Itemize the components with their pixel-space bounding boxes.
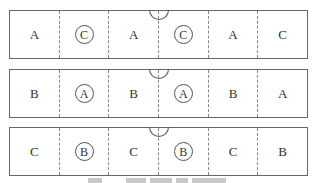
- cell: A: [208, 11, 258, 58]
- circled-cell-label: C: [174, 25, 193, 44]
- cell: A: [10, 11, 59, 58]
- circled-cell-label: B: [174, 142, 193, 161]
- cell: A: [257, 70, 307, 117]
- circled-cell-label: B: [75, 142, 94, 161]
- circled-cell-label: C: [75, 25, 94, 44]
- cell: C: [59, 11, 109, 58]
- cell-label: C: [229, 144, 238, 160]
- figure-caption: [0, 178, 317, 183]
- cell-label: A: [228, 27, 237, 43]
- caption-fragment: [126, 178, 146, 183]
- cell-label: C: [129, 144, 138, 160]
- cell: C: [158, 11, 208, 58]
- panel-row-2: B A B A B A: [9, 69, 308, 118]
- cell-label: B: [278, 144, 287, 160]
- cell: B: [158, 128, 208, 175]
- caption-fragment: [88, 178, 102, 183]
- cell-label: B: [129, 86, 138, 102]
- cell-label: B: [229, 86, 238, 102]
- cell-label: C: [30, 144, 39, 160]
- circled-cell-label: A: [75, 84, 94, 103]
- cell-label: A: [129, 27, 138, 43]
- cell: B: [59, 128, 109, 175]
- panel-row-1: A C A C A C: [9, 10, 308, 59]
- cell: C: [108, 128, 158, 175]
- cell: B: [10, 70, 59, 117]
- cell: A: [158, 70, 208, 117]
- cell-label: A: [278, 86, 287, 102]
- cell: A: [59, 70, 109, 117]
- caption-fragment: [150, 178, 172, 183]
- panel-row-3: C B C B C B: [9, 127, 308, 176]
- cell-label: B: [30, 86, 39, 102]
- cell: A: [108, 11, 158, 58]
- cell: B: [208, 70, 258, 117]
- circled-cell-label: A: [174, 84, 193, 103]
- cell: C: [10, 128, 59, 175]
- cell: C: [208, 128, 258, 175]
- cell: B: [257, 128, 307, 175]
- cell-label: A: [30, 27, 39, 43]
- cell-label: C: [278, 27, 287, 43]
- cell: B: [108, 70, 158, 117]
- cell: C: [257, 11, 307, 58]
- caption-fragment: [192, 178, 226, 183]
- caption-fragment: [176, 178, 188, 183]
